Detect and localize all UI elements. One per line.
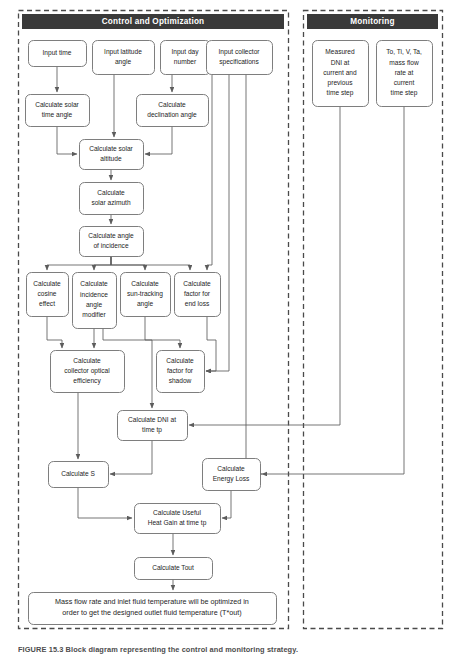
node-label-input_day: Input day	[171, 48, 199, 56]
node-calc_dni[interactable]: Calculate DNI attime tp	[118, 411, 188, 441]
node-label-calc_dni: Calculate DNI at	[128, 416, 176, 423]
node-label-input_latitude: Input latitude	[104, 48, 142, 56]
node-label-calc_incidence: Calculate angle	[88, 232, 134, 240]
node-label-calc_incidence: of incidence	[93, 242, 129, 249]
node-label-measured_temps: rate at	[395, 69, 414, 76]
node-calc_iam[interactable]: Calculateincidenceanglemodifier	[73, 273, 117, 329]
node-label-calc_suntrack: angle	[137, 300, 153, 308]
edge-input_collector-to-calc_energyloss	[246, 74, 262, 474]
node-label-measured_dni: previous	[328, 79, 354, 87]
node-calc_s[interactable]: Calculate S	[49, 462, 109, 488]
edge-calc_suntrack-to-calc_shadow	[145, 316, 180, 348]
edge-calc_solar_time-to-calc_altitude	[57, 126, 77, 154]
node-label-measured_dni: current and	[323, 69, 357, 76]
node-label-calc_azimuth: Calculate	[97, 189, 125, 196]
edge-calc_endloss-to-calc_shadow	[206, 316, 216, 371]
node-calc_endloss[interactable]: Calculatefactor forend loss	[175, 273, 221, 317]
node-input_collector[interactable]: Input collectorspecifications	[207, 41, 273, 75]
node-optimize_note[interactable]: Mass flow rate and inlet fluid temperatu…	[29, 593, 277, 625]
node-measured_temps[interactable]: To, Ti, V, Ta,mass flowrate atcurrenttim…	[377, 41, 433, 107]
node-label-measured_temps: time step	[391, 89, 418, 97]
edge-measured_temps-to-calc_energyloss	[262, 106, 404, 474]
node-label-calc_useful: Calculate Useful	[153, 509, 202, 516]
node-label-calc_shadow: Calculate	[166, 357, 194, 364]
node-label-measured_temps: To, Ti, V, Ta,	[386, 48, 422, 55]
edge-calc_dni-to-calc_s	[110, 440, 152, 474]
node-label-calc_tout: Calculate Tout	[152, 564, 194, 571]
node-label-calc_solar_time: Calculate solar	[35, 101, 79, 108]
node-calc_incidence[interactable]: Calculate angleof incidence	[80, 227, 144, 257]
node-label-calc_optical: efficiency	[73, 377, 101, 385]
node-label-calc_useful: Heat Gain at time tp	[148, 519, 207, 527]
node-label-calc_dni: time tp	[142, 426, 162, 434]
node-input_latitude[interactable]: Input latitudeangle	[93, 41, 155, 75]
node-input_day[interactable]: Input daynumber	[161, 41, 211, 75]
node-label-input_collector: Input collector	[218, 48, 260, 56]
node-label-calc_optical: collector optical	[64, 367, 110, 375]
node-measured_dni[interactable]: MeasuredDNI atcurrent andprevioustime st…	[313, 41, 369, 107]
node-label-calc_cosine: Calculate	[33, 280, 61, 287]
edge-calc_declination-to-calc_altitude	[145, 126, 172, 154]
node-calc_useful[interactable]: Calculate UsefulHeat Gain at time tp	[135, 504, 221, 534]
node-calc_cosine[interactable]: Calculatecosineeffect	[27, 273, 69, 317]
flowchart-diagram: Control and OptimizationMonitoring Input…	[0, 0, 458, 655]
node-label-calc_solar_time: time angle	[42, 111, 73, 119]
node-label-calc_iam: angle	[86, 301, 102, 309]
node-input_time[interactable]: Input time	[29, 41, 87, 67]
node-label-calc_iam: incidence	[80, 291, 108, 298]
node-label-calc_suntrack: Calculate	[131, 280, 159, 287]
node-label-input_latitude: angle	[115, 58, 131, 66]
node-label-calc_declination: Calculate	[158, 101, 186, 108]
edge-calc_energyloss-to-calc_useful	[222, 490, 231, 518]
node-label-calc_endloss: Calculate	[183, 280, 211, 287]
node-label-calc_endloss: end loss	[185, 300, 210, 307]
node-label-calc_s: Calculate S	[61, 470, 95, 477]
node-calc_solar_time[interactable]: Calculate solartime angle	[26, 95, 90, 127]
node-label-calc_altitude: Calculate solar	[89, 145, 133, 152]
node-label-optimize_note: Mass flow rate and inlet fluid temperatu…	[55, 597, 249, 606]
edge-calc_cosine-to-calc_optical	[47, 316, 62, 348]
node-label-measured_temps: current	[394, 79, 415, 86]
node-label-measured_temps: mass flow	[389, 59, 419, 66]
figure-caption: FIGURE 15.3 Block diagram representing t…	[18, 645, 442, 655]
node-label-calc_cosine: cosine	[37, 290, 56, 297]
node-label-measured_dni: Measured	[325, 48, 355, 55]
edge-calc_incidence-to-calc_cosine	[47, 256, 111, 270]
node-calc_suntrack[interactable]: Calculatesun-trackingangle	[121, 273, 171, 317]
edge-input_collector-to-calc_shadow	[206, 74, 229, 371]
edge-calc_s-to-calc_useful	[78, 487, 132, 518]
node-label-calc_iam: Calculate	[80, 280, 108, 287]
node-label-calc_iam: modifier	[82, 311, 106, 318]
node-calc_tout[interactable]: Calculate Tout	[135, 558, 213, 580]
node-calc_declination[interactable]: Calculatedeclination angle	[137, 95, 209, 127]
node-label-calc_cosine: effect	[39, 300, 55, 307]
node-label-calc_altitude: altitude	[100, 155, 122, 162]
figure-root: Control and OptimizationMonitoring Input…	[0, 0, 458, 655]
node-calc_energyloss[interactable]: CalculateEnergy Loss	[203, 459, 261, 491]
edge-calc_incidence-to-calc_iam	[94, 256, 111, 270]
node-label-calc_suntrack: sun-tracking	[127, 290, 163, 298]
panel-title-monitoring: Monitoring	[350, 17, 394, 26]
node-label-calc_shadow: shadow	[169, 377, 192, 384]
node-label-optimize_note: order to get the designed outlet fluid t…	[62, 608, 241, 617]
node-calc_optical[interactable]: Calculatecollector opticalefficiency	[51, 351, 125, 393]
node-label-input_day: number	[174, 58, 197, 65]
edge-calc_incidence-to-calc_suntrack	[111, 256, 145, 270]
panel-title-control: Control and Optimization	[102, 17, 205, 26]
node-calc_azimuth[interactable]: Calculatesolar azimuth	[80, 183, 144, 215]
node-label-calc_energyloss: Energy Loss	[213, 475, 250, 483]
node-label-calc_azimuth: solar azimuth	[91, 199, 131, 206]
node-calc_altitude[interactable]: Calculate solaraltitude	[80, 140, 144, 170]
node-label-measured_dni: DNI at	[331, 59, 350, 66]
node-label-calc_shadow: factor for	[167, 367, 194, 374]
node-label-measured_dni: time step	[327, 89, 354, 97]
node-label-calc_declination: declination angle	[147, 111, 197, 119]
node-label-calc_endloss: factor for	[184, 290, 211, 297]
node-label-input_collector: specifications	[219, 58, 259, 66]
edge-calc_incidence-to-calc_endloss	[111, 256, 190, 270]
node-label-calc_optical: Calculate	[73, 357, 101, 364]
node-label-calc_energyloss: Calculate	[217, 465, 245, 472]
node-label-input_time: Input time	[43, 49, 72, 57]
node-calc_shadow[interactable]: Calculatefactor forshadow	[157, 351, 205, 393]
